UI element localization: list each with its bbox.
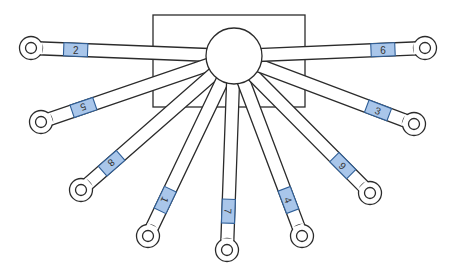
label-tab-6: 6 [371,43,396,57]
terminal-hole-icon [36,117,47,128]
label-tab-1: 1 [154,186,176,213]
label-tab-4: 4 [278,186,299,213]
terminal-hole-icon [297,231,308,242]
terminal-hole-icon [222,245,233,256]
terminal-hole-icon [26,43,37,54]
terminal-hole-icon [409,119,420,130]
label-tab-7: 7 [221,199,235,223]
terminal-hole-icon [420,43,431,54]
label-tab-3: 3 [364,100,391,121]
terminal-hole-icon [143,231,154,242]
arm-label: 2 [73,45,79,56]
terminal-hole-icon [76,185,87,196]
harness-diagram: 258174936 [0,0,451,276]
label-tab-5: 5 [70,97,97,117]
arm-label: 6 [380,45,386,56]
hub [206,28,262,84]
hub-circle [206,28,262,84]
label-tab-2: 2 [63,43,87,57]
terminal-hole-icon [365,188,376,199]
arm-label: 7 [222,208,233,214]
